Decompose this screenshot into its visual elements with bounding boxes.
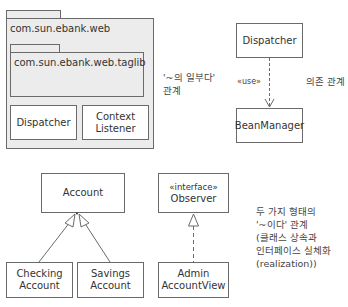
hollow-triangle-icon — [189, 214, 199, 226]
hollow-triangle-icon — [65, 214, 75, 227]
generalization-line-savings — [84, 222, 110, 262]
hollow-triangle-icon — [79, 214, 89, 227]
generalization-line-checking — [39, 222, 70, 262]
connector-layer — [0, 0, 348, 307]
